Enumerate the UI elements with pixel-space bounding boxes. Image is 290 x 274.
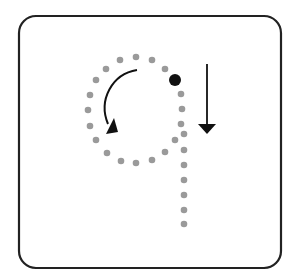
guide-dot	[93, 77, 100, 84]
guide-dot	[104, 150, 111, 157]
guide-dot	[181, 162, 188, 169]
guide-dot	[118, 158, 125, 165]
guide-dot	[162, 66, 169, 73]
guide-dot	[178, 121, 185, 128]
tracing-card: Letter q tracing guide	[0, 0, 290, 274]
guide-dot	[149, 157, 156, 164]
guide-dot	[181, 131, 188, 138]
guide-dot	[162, 149, 169, 156]
guide-dot	[181, 192, 188, 199]
guide-dot	[178, 91, 185, 98]
guide-dot	[181, 221, 188, 228]
guide-dot	[133, 54, 140, 61]
guide-dot	[149, 57, 156, 64]
guide-dot	[181, 147, 188, 154]
guide-dot	[181, 207, 188, 214]
guide-dot	[172, 137, 179, 144]
guide-dot	[87, 92, 94, 99]
guide-dot	[85, 107, 92, 114]
guide-dot	[103, 66, 110, 73]
guide-dot	[87, 123, 94, 130]
guide-dot	[117, 57, 124, 64]
start-point-dot	[169, 74, 181, 86]
guide-dot	[181, 177, 188, 184]
guide-dot	[133, 160, 140, 167]
guide-dot	[93, 137, 100, 144]
card-frame	[19, 16, 281, 268]
guide-dot	[179, 106, 186, 113]
